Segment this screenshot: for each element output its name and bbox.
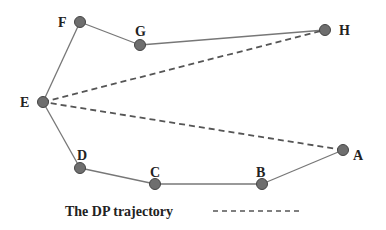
- trajectory-diagram: ABCDEFGH The DP trajectory: [0, 0, 386, 230]
- point-d: [75, 163, 86, 174]
- point-f: [75, 17, 86, 28]
- point-a: [338, 145, 349, 156]
- trajectory-points: [38, 17, 349, 190]
- point-b: [257, 179, 268, 190]
- point-e: [38, 97, 49, 108]
- segment-CD: [80, 168, 155, 184]
- segment-EF: [43, 22, 80, 102]
- legend: The DP trajectory: [65, 204, 302, 219]
- point-c: [150, 179, 161, 190]
- point-label-g: G: [135, 24, 146, 39]
- original-trajectory-lines: [43, 22, 343, 184]
- point-label-b: B: [256, 165, 265, 180]
- legend-label: The DP trajectory: [65, 204, 173, 219]
- segment-AB: [262, 150, 343, 184]
- point-label-e: E: [20, 95, 29, 110]
- point-label-h: H: [339, 23, 350, 38]
- point-label-c: C: [150, 165, 160, 180]
- point-h: [320, 25, 331, 36]
- segment-FG: [80, 22, 140, 45]
- dp-trajectory-lines: [43, 30, 343, 150]
- dp-segment-AE: [43, 102, 343, 150]
- point-label-f: F: [58, 15, 67, 30]
- point-label-d: D: [77, 148, 87, 163]
- segment-DE: [43, 102, 80, 168]
- point-label-a: A: [353, 148, 364, 163]
- point-g: [135, 40, 146, 51]
